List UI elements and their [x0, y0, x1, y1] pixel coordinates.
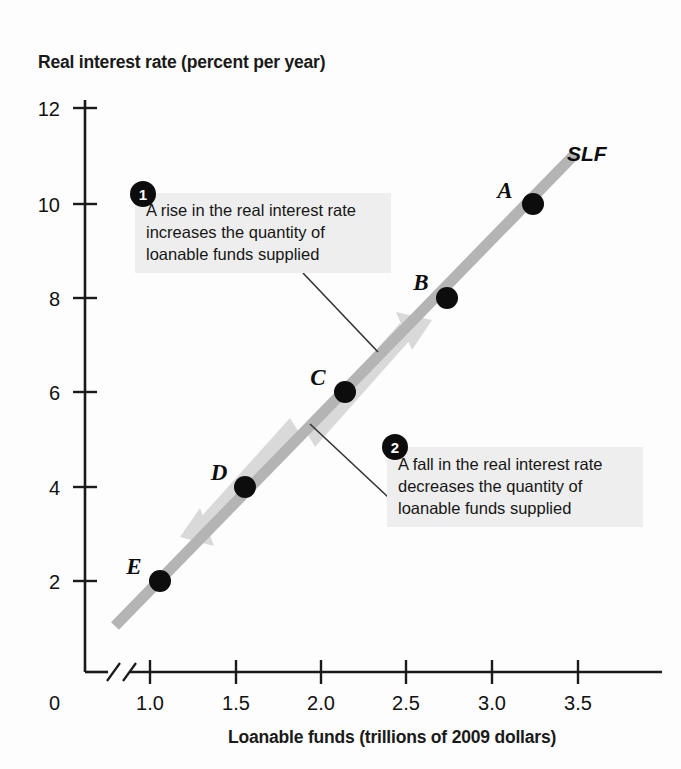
- chart-canvas: 12 10 8 6 4 2 0 1.0 1.5 2.0 2.5 3.0 3.5: [0, 0, 681, 769]
- x-tick-label-2-0: 2.0: [307, 692, 335, 714]
- slf-curve-label: SLF: [567, 142, 608, 165]
- y-tick-label-2: 2: [49, 571, 60, 593]
- data-point-c: [334, 381, 356, 403]
- x-tick-label-3-0: 3.0: [478, 692, 506, 714]
- x-tick-label-1-0: 1.0: [136, 692, 164, 714]
- data-point-b: [436, 287, 458, 309]
- data-point-label-b: B: [412, 270, 428, 295]
- y-tick-label-4: 4: [49, 477, 60, 499]
- data-point-label-e: E: [125, 554, 141, 579]
- y-tick-label-6: 6: [49, 382, 60, 404]
- callout-box-1: A rise in the real interest rate increas…: [135, 193, 391, 273]
- x-axis-title: Loanable funds (trillions of 2009 dollar…: [228, 727, 556, 748]
- data-point-label-a: A: [495, 178, 512, 203]
- data-point-a: [522, 193, 544, 215]
- data-point-label-c: C: [310, 365, 326, 390]
- data-point-label-d: D: [210, 460, 228, 485]
- x-tick-label-3-5: 3.5: [564, 692, 592, 714]
- callout-badge-2: 2: [382, 434, 408, 460]
- axis-break-slash-1: [107, 663, 120, 681]
- data-point-e: [149, 570, 171, 592]
- y-tick-label-10: 10: [38, 194, 60, 216]
- callout-1-leader-line: [303, 273, 378, 352]
- callout-badge-1: 1: [130, 181, 156, 207]
- x-tick-label-1-5: 1.5: [222, 692, 250, 714]
- y-tick-label-12: 12: [38, 98, 60, 120]
- x-tick-label-2-5: 2.5: [392, 692, 420, 714]
- callout-box-2: A fall in the real interest rate decreas…: [387, 447, 643, 527]
- origin-label: 0: [49, 692, 60, 714]
- callout-2-leader-line: [310, 424, 388, 497]
- data-point-d: [234, 476, 256, 498]
- chart-figure: Real interest rate (percent per year) 12…: [0, 0, 681, 769]
- y-tick-label-8: 8: [49, 288, 60, 310]
